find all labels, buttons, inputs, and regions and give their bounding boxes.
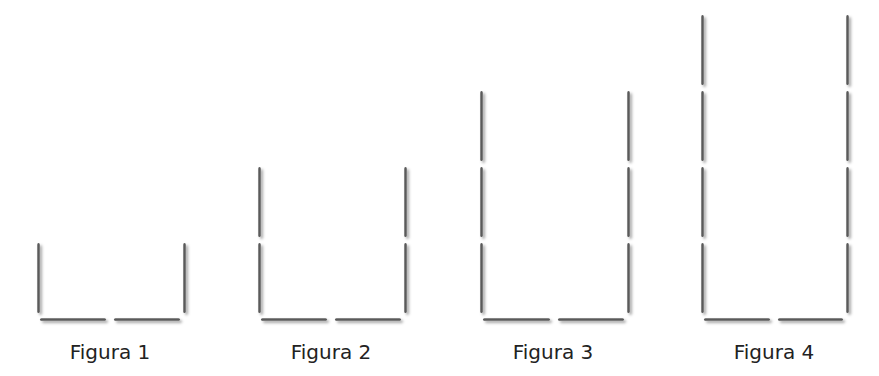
matchstick-vertical-left (701, 91, 704, 161)
matchstick-vertical-right (627, 243, 630, 313)
matchstick-horizontal-bottom (778, 318, 844, 321)
matchstick-horizontal-bottom (114, 318, 180, 321)
matchstick-vertical-right (404, 243, 407, 313)
matchstick-horizontal-bottom (704, 318, 770, 321)
matchstick-horizontal-bottom (261, 318, 327, 321)
matchstick-vertical-left (701, 243, 704, 313)
matchstick-vertical-right (846, 15, 849, 85)
matchstick-vertical-left (701, 15, 704, 85)
figure-label: Figura 4 (734, 340, 815, 364)
matchstick-horizontal-bottom (335, 318, 401, 321)
matchstick-vertical-left (480, 91, 483, 161)
matchstick-vertical-right (846, 243, 849, 313)
matchstick-vertical-right (846, 91, 849, 161)
matchstick-pattern-diagram: Figura 1Figura 2Figura 3Figura 4 (0, 0, 879, 376)
matchstick-vertical-left (480, 243, 483, 313)
matchstick-horizontal-bottom (40, 318, 106, 321)
matchstick-horizontal-bottom (483, 318, 550, 321)
figure-label: Figura 1 (70, 340, 151, 364)
figure-label: Figura 3 (513, 340, 594, 364)
matchstick-vertical-left (258, 167, 261, 237)
matchstick-vertical-right (627, 167, 630, 237)
matchstick-horizontal-bottom (558, 318, 625, 321)
matchstick-vertical-left (480, 167, 483, 237)
matchstick-vertical-right (404, 167, 407, 237)
matchstick-vertical-right (183, 243, 186, 313)
matchstick-vertical-left (258, 243, 261, 313)
matchstick-vertical-right (846, 167, 849, 237)
figure-label: Figura 2 (291, 340, 372, 364)
matchstick-vertical-right (627, 91, 630, 161)
matchstick-vertical-left (701, 167, 704, 237)
matchstick-vertical-left (37, 243, 40, 313)
